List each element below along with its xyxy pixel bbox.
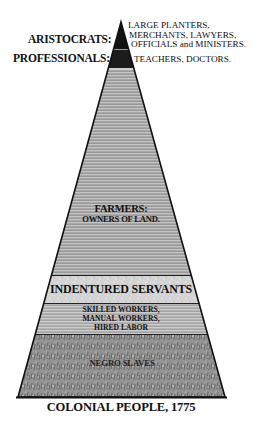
colonial-society-pyramid-diagram: ARISTOCRATS: PROFESSIONALS: LARGE PLANTE… — [0, 0, 255, 431]
layer-farmers — [0, 70, 255, 275]
farmers-members: OWNERS OF LAND. — [82, 215, 160, 224]
slaves-label: NEGRO SLAVES — [89, 359, 154, 368]
diagram-title: COLONIAL PEOPLE, 1775 — [47, 401, 196, 414]
professionals-members: TEACHERS, DOCTORS. — [134, 55, 231, 65]
member-line: TEACHERS, DOCTORS. — [134, 55, 231, 65]
farmers-label: FARMERS: — [94, 204, 147, 215]
member-line: OFFICIALS and MINISTERS. — [128, 40, 246, 50]
workers-members: SKILLED WORKERS, MANUAL WORKERS, HIRED L… — [82, 305, 159, 332]
aristocrats-label: ARISTOCRATS: — [28, 34, 111, 46]
professionals-label: PROFESSIONALS: — [13, 53, 110, 65]
indentured-servants-label: INDENTURED SERVANTS — [50, 283, 192, 295]
member-line: MANUAL WORKERS, — [82, 314, 159, 323]
aristocrats-members: LARGE PLANTERS, MERCHANTS, LAWYERS, OFFI… — [128, 21, 246, 50]
member-line: HIRED LABOR — [82, 323, 159, 332]
member-line: SKILLED WORKERS, — [82, 305, 159, 314]
